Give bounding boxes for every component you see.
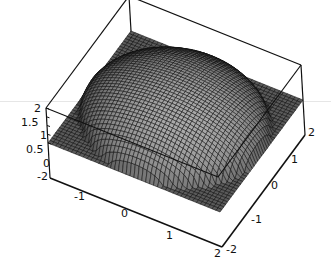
x-tick-label: 1 [166, 230, 173, 241]
y-tick-label: 1 [291, 154, 298, 165]
z-tick-label: 2 [34, 103, 41, 114]
y-tick-label: 2 [308, 127, 315, 138]
y-tick-label: 0 [271, 180, 278, 191]
x-tick-label: -1 [74, 191, 85, 202]
y-tick-label: -1 [251, 214, 262, 225]
z-tick-label: -2 [37, 171, 48, 182]
hemisphere-surface-mesh [48, 31, 303, 212]
z-tick-label: 1.5 [21, 117, 39, 128]
z-tick-label: 1 [40, 130, 47, 141]
z-tick-label: 0.5 [26, 144, 44, 155]
x-tick-label: 2 [214, 248, 221, 259]
x-tick-label: 0 [121, 208, 128, 219]
y-tick-label: -2 [226, 244, 237, 255]
z-tick-label: 0 [43, 158, 50, 169]
